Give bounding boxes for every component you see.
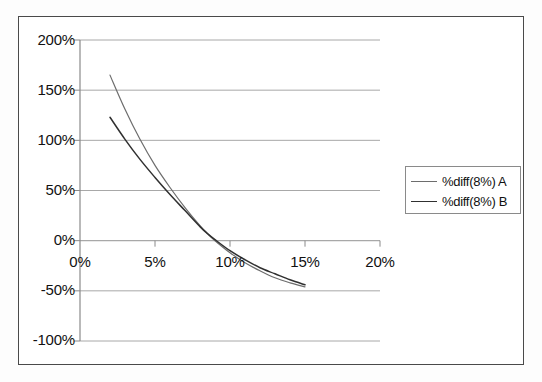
y-tick-label-0: 200% <box>18 31 75 48</box>
x-tick-label-4: 20% <box>356 253 404 270</box>
legend-label-a: %diff(8%) A <box>442 174 506 189</box>
y-tick-label-4: 0% <box>18 231 75 248</box>
x-tick-label-0: 0% <box>56 253 104 270</box>
y-tick-label-5: -50% <box>18 281 75 298</box>
legend-label-b: %diff(8%) B <box>442 194 507 209</box>
gridlines <box>74 40 380 341</box>
legend-item-series-b: %diff(8%) B <box>406 191 520 211</box>
legend-item-series-a: %diff(8%) A <box>406 171 520 191</box>
x-tick-label-1: 5% <box>131 253 179 270</box>
x-tick-label-2: 10% <box>206 253 254 270</box>
x-tick-label-3: 15% <box>281 253 329 270</box>
chart-screenshot: 200% 150% 100% 50% 0% -50% -100% 0% 5% 1… <box>0 0 542 382</box>
chart-legend: %diff(8%) A %diff(8%) B <box>405 166 521 214</box>
legend-line-icon-a <box>411 181 437 182</box>
legend-line-icon-b <box>411 201 437 202</box>
y-tick-label-3: 50% <box>18 181 75 198</box>
x-axis-ticks <box>155 241 380 247</box>
y-tick-label-2: 100% <box>18 131 75 148</box>
y-tick-label-1: 150% <box>18 81 75 98</box>
y-tick-label-6: -100% <box>18 331 75 348</box>
